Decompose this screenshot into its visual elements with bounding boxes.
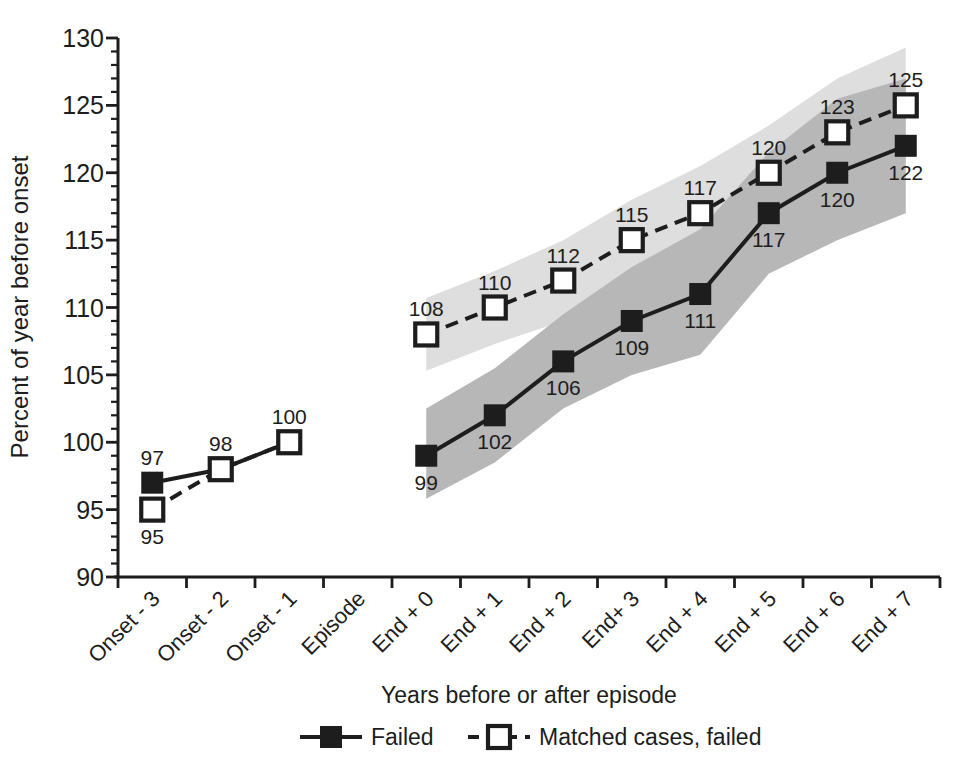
marker-matched bbox=[895, 94, 917, 116]
data-label: 120 bbox=[820, 188, 855, 211]
marker-failed bbox=[484, 404, 506, 426]
data-label: 108 bbox=[409, 297, 444, 320]
line-chart: 9095100105110115120125130Onset - 3Onset … bbox=[0, 0, 953, 774]
data-label: 99 bbox=[415, 471, 438, 494]
legend-marker-filled-square bbox=[320, 726, 342, 748]
data-label: 120 bbox=[751, 136, 786, 159]
data-label: 117 bbox=[684, 176, 717, 199]
marker-failed bbox=[826, 162, 848, 184]
y-tick-label: 90 bbox=[76, 563, 104, 591]
marker-failed bbox=[689, 283, 711, 305]
marker-matched bbox=[141, 499, 163, 521]
marker-matched bbox=[278, 431, 300, 453]
marker-failed bbox=[415, 445, 437, 467]
data-label: 97 bbox=[141, 446, 164, 469]
marker-matched bbox=[621, 229, 643, 251]
y-axis-title: Percent of year before onset bbox=[6, 155, 33, 458]
y-tick-label: 95 bbox=[76, 496, 104, 524]
marker-matched bbox=[826, 121, 848, 143]
marker-failed bbox=[895, 135, 917, 157]
data-label: 111 bbox=[684, 309, 716, 332]
y-tick-label: 110 bbox=[64, 294, 104, 322]
y-tick-label: 125 bbox=[62, 91, 104, 119]
data-label: 123 bbox=[820, 95, 855, 118]
marker-failed bbox=[141, 472, 163, 494]
legend-label-failed: Failed bbox=[371, 724, 434, 750]
marker-matched bbox=[210, 458, 232, 480]
data-label: 110 bbox=[478, 271, 511, 294]
marker-failed bbox=[621, 310, 643, 332]
data-label: 125 bbox=[888, 68, 923, 91]
data-label: 122 bbox=[888, 161, 923, 184]
marker-matched bbox=[484, 297, 506, 319]
data-label: 100 bbox=[272, 405, 307, 428]
x-axis-title: Years before or after episode bbox=[381, 682, 677, 708]
marker-failed bbox=[552, 350, 574, 372]
marker-matched bbox=[552, 270, 574, 292]
data-label: 115 bbox=[615, 203, 648, 226]
data-label: 102 bbox=[477, 430, 512, 453]
y-tick-label: 130 bbox=[62, 24, 104, 52]
y-tick-label: 120 bbox=[62, 159, 104, 187]
marker-matched bbox=[758, 162, 780, 184]
legend-marker-open-square bbox=[488, 726, 510, 748]
marker-matched bbox=[415, 323, 437, 345]
y-axis-title-group: Percent of year before onset bbox=[6, 155, 33, 458]
data-label: 106 bbox=[546, 376, 581, 399]
legend-item-matched: Matched cases, failed bbox=[468, 724, 761, 750]
y-tick-label: 105 bbox=[62, 361, 104, 389]
chart-figure: 9095100105110115120125130Onset - 3Onset … bbox=[0, 0, 953, 774]
data-label: 109 bbox=[614, 336, 649, 359]
y-tick-label: 100 bbox=[62, 428, 104, 456]
legend-label-matched: Matched cases, failed bbox=[539, 724, 761, 750]
y-tick-label: 115 bbox=[64, 226, 104, 254]
marker-failed bbox=[758, 202, 780, 224]
data-label: 98 bbox=[209, 432, 232, 455]
data-label: 95 bbox=[141, 525, 164, 548]
data-label: 112 bbox=[547, 244, 580, 267]
data-label: 117 bbox=[752, 228, 785, 251]
marker-matched bbox=[689, 202, 711, 224]
